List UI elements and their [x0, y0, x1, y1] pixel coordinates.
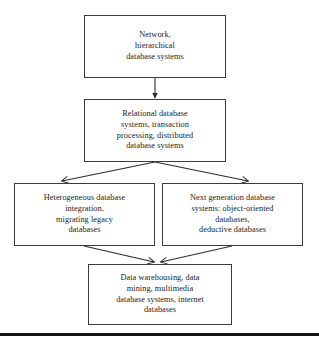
edge-nextgen-to-warehousing: [161, 246, 232, 262]
node-next-generation-systems: Next generation database systems: object…: [162, 183, 303, 246]
node-relational-systems: Relational database systems, transaction…: [84, 99, 226, 162]
node-legacy-systems: Network, hierarchical database systems: [84, 15, 226, 78]
node-legacy-systems-label: Network, hierarchical database systems: [85, 30, 225, 62]
edge-heterogeneous-to-warehousing: [84, 246, 154, 262]
node-relational-systems-label: Relational database systems, transaction…: [85, 109, 225, 152]
node-data-warehousing-systems-label: Data warehousing, data mining, multimedi…: [89, 273, 231, 316]
flowchart-diagram: Network, hierarchical database systems R…: [0, 0, 319, 339]
node-heterogeneous-systems: Heterogeneous database integration, migr…: [14, 183, 155, 246]
node-next-generation-systems-label: Next generation database systems: object…: [163, 193, 302, 236]
node-heterogeneous-systems-label: Heterogeneous database integration, migr…: [15, 193, 154, 236]
footer-divider: [0, 333, 319, 336]
edge-relational-to-nextgen: [155, 162, 248, 181]
edge-relational-to-heterogeneous: [62, 162, 155, 181]
node-data-warehousing-systems: Data warehousing, data mining, multimedi…: [88, 264, 232, 325]
